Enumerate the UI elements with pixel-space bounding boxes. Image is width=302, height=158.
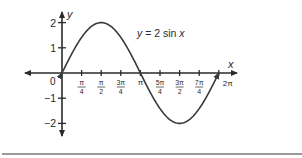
x-tick-denominator: 2 — [99, 88, 103, 95]
origin-label: 0 — [50, 76, 56, 87]
x-tick-denominator: 4 — [80, 88, 84, 95]
function-label: y = 2 sin x — [136, 27, 185, 39]
x-tick-numerator: 3π — [116, 79, 125, 86]
y-tick-label: 2 — [50, 17, 56, 29]
y-axis-label: y — [66, 8, 74, 20]
x-tick-numerator: 5π — [156, 79, 165, 86]
x-tick-denominator: 2 — [178, 88, 182, 95]
x-tick-denominator: 4 — [197, 88, 201, 95]
x-tick-denominator: 4 — [158, 88, 162, 95]
x-tick-numerator: 7π — [195, 79, 204, 86]
y-tick-label: 1 — [50, 42, 56, 54]
x-tick-numerator: π — [99, 79, 104, 86]
x-tick-denominator: 4 — [119, 88, 123, 95]
x-axis-label: x — [227, 58, 234, 70]
x-tick-label: 2π — [223, 79, 233, 88]
x-tick-numerator: 3π — [175, 79, 184, 86]
y-tick-label: −2 — [44, 117, 56, 129]
divider-rule — [2, 153, 302, 155]
x-tick-numerator: π — [79, 79, 84, 86]
y-tick-label: −1 — [44, 92, 56, 104]
sine-chart: π4π23π4π5π43π27π42π 21−1−2 y x 0 y = 2 s… — [0, 0, 302, 158]
